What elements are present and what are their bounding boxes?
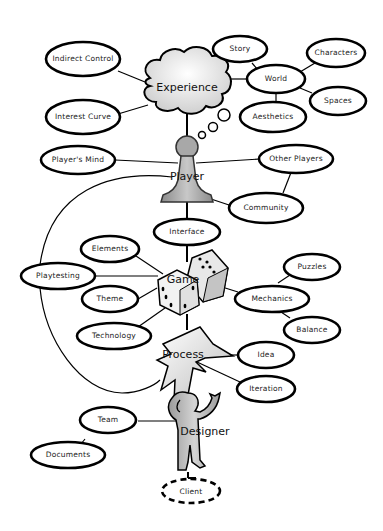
node-client[interactable]: Client <box>162 479 220 503</box>
node-aesthetics[interactable]: Aesthetics <box>240 102 306 132</box>
node-mechanics[interactable]: Mechanics <box>235 286 309 312</box>
svg-text:Elements: Elements <box>92 244 129 253</box>
svg-text:Spaces: Spaces <box>324 96 352 105</box>
node-iteration[interactable]: Iteration <box>237 376 295 402</box>
node-puzzles[interactable]: Puzzles <box>284 254 340 280</box>
svg-text:Idea: Idea <box>258 350 275 359</box>
svg-text:Iteration: Iteration <box>249 384 283 393</box>
game-hub[interactable]: Game <box>158 250 228 315</box>
svg-text:Other Players: Other Players <box>269 154 323 163</box>
svg-text:Client: Client <box>180 487 203 496</box>
node-documents[interactable]: Documents <box>31 442 105 468</box>
node-players-mind[interactable]: Player's Mind <box>41 146 115 174</box>
pawn-icon <box>161 136 213 202</box>
node-idea[interactable]: Idea <box>238 342 294 368</box>
player-label: Player <box>170 170 205 183</box>
node-interest-curve[interactable]: Interest Curve <box>46 100 120 134</box>
svg-text:Community: Community <box>243 203 289 212</box>
process-hub[interactable]: Process <box>157 327 233 402</box>
process-label: Process <box>162 348 204 361</box>
svg-text:Story: Story <box>230 44 251 53</box>
game-design-diagram: Experience Player <box>0 0 383 531</box>
svg-text:World: World <box>265 74 288 83</box>
svg-text:Puzzles: Puzzles <box>297 262 326 271</box>
node-other-players[interactable]: Other Players <box>259 145 333 173</box>
svg-text:Playtesting: Playtesting <box>36 271 80 280</box>
svg-text:Aesthetics: Aesthetics <box>253 112 294 121</box>
node-balance[interactable]: Balance <box>284 317 340 343</box>
svg-text:Interest Curve: Interest Curve <box>55 112 111 121</box>
svg-text:Team: Team <box>97 415 119 424</box>
svg-text:Interface: Interface <box>169 227 205 236</box>
svg-text:Mechanics: Mechanics <box>251 294 292 303</box>
svg-text:Technology: Technology <box>91 331 136 340</box>
node-technology[interactable]: Technology <box>77 323 151 349</box>
svg-text:Characters: Characters <box>315 48 358 57</box>
node-community[interactable]: Community <box>229 193 303 223</box>
lightning-bolt-icon <box>157 327 233 402</box>
node-spaces[interactable]: Spaces <box>310 87 366 115</box>
svg-text:Balance: Balance <box>296 325 327 334</box>
svg-text:Theme: Theme <box>96 294 124 303</box>
node-characters[interactable]: Characters <box>307 39 365 67</box>
node-elements[interactable]: Elements <box>81 236 139 262</box>
game-label: Game <box>167 273 200 286</box>
node-theme[interactable]: Theme <box>82 286 138 312</box>
node-world[interactable]: World <box>247 65 305 93</box>
designer-hub[interactable]: Designer <box>169 392 231 470</box>
experience-label: Experience <box>156 81 218 94</box>
node-story[interactable]: Story <box>213 36 267 62</box>
player-hub[interactable]: Player <box>161 136 213 202</box>
svg-text:Documents: Documents <box>46 450 91 459</box>
designer-label: Designer <box>180 425 230 438</box>
svg-text:Player's Mind: Player's Mind <box>52 155 104 164</box>
thought-bubbles-icon <box>199 109 231 139</box>
node-indirect-control[interactable]: Indirect Control <box>46 42 120 76</box>
node-interface[interactable]: Interface <box>154 219 220 245</box>
node-team[interactable]: Team <box>80 407 136 433</box>
svg-text:Indirect Control: Indirect Control <box>52 54 113 63</box>
node-playtesting[interactable]: Playtesting <box>21 263 95 289</box>
